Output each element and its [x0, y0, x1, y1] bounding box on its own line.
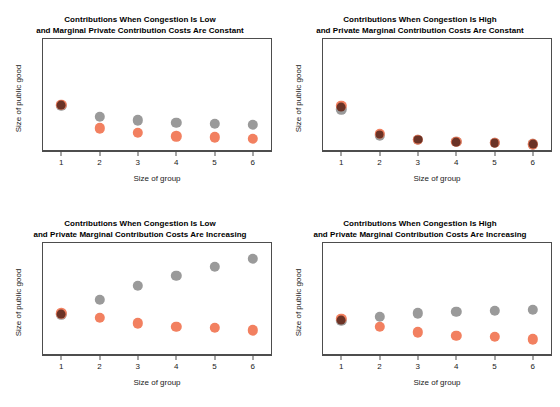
x-axis-tick: [341, 355, 342, 360]
x-axis-tick: [379, 151, 380, 156]
plot-area: [42, 242, 272, 355]
data-point-gray: [451, 307, 461, 317]
x-axis-tick: [252, 151, 253, 156]
data-point-overlap: [337, 103, 346, 112]
x-axis-tick-label: 6: [251, 158, 255, 167]
data-point-gray: [209, 119, 219, 129]
x-axis-line: [322, 151, 552, 152]
data-point-overlap: [528, 140, 537, 149]
x-axis-line: [42, 355, 272, 356]
x-axis-tick-label: 4: [454, 158, 458, 167]
x-axis-tick: [176, 151, 177, 156]
data-point-orange: [133, 318, 143, 328]
x-axis-tick-label: 6: [251, 362, 255, 371]
data-point-gray: [171, 118, 181, 128]
x-axis-tick-label: 2: [377, 158, 381, 167]
data-point-gray: [133, 281, 143, 291]
data-point-orange: [413, 327, 423, 337]
x-axis-tick-label: 3: [416, 158, 420, 167]
x-axis-tick: [494, 355, 495, 360]
data-point-gray: [209, 262, 219, 272]
x-axis-tick-label: 2: [97, 158, 101, 167]
data-point-overlap: [413, 135, 422, 144]
data-point-orange: [209, 323, 219, 333]
data-point-orange: [133, 128, 143, 138]
data-point-orange: [528, 334, 538, 344]
x-axis-tick-label: 6: [531, 158, 535, 167]
data-point-overlap: [490, 139, 499, 148]
x-axis-tick-label: 4: [454, 362, 458, 371]
data-point-gray: [94, 112, 104, 122]
data-point-orange: [209, 132, 219, 142]
data-point-orange: [94, 313, 104, 323]
x-axis-tick: [176, 355, 177, 360]
x-axis-tick-label: 2: [97, 362, 101, 371]
data-point-orange: [248, 325, 258, 335]
data-point-orange: [374, 322, 384, 332]
data-point-overlap: [337, 316, 346, 325]
x-axis-title: Size of group: [42, 174, 272, 183]
x-axis-tick: [379, 355, 380, 360]
x-axis-tick: [417, 151, 418, 156]
data-point-gray: [413, 308, 423, 318]
x-axis-tick-label: 5: [492, 158, 496, 167]
panel-title: Contributions When Congestion Is High an…: [280, 218, 560, 240]
x-axis-tick-label: 1: [59, 158, 63, 167]
plot-area: [322, 38, 552, 151]
x-axis-tick-label: 5: [212, 362, 216, 371]
data-point-gray: [171, 271, 181, 281]
panel-title: Contributions When Congestion Is Low and…: [0, 14, 280, 36]
data-point-overlap: [452, 138, 461, 147]
x-axis-tick: [137, 151, 138, 156]
data-point-orange: [171, 322, 181, 332]
y-axis-title: Size of public good: [14, 42, 23, 155]
x-axis-tick: [61, 355, 62, 360]
x-axis-tick-label: 1: [59, 362, 63, 371]
data-point-overlap: [57, 101, 66, 110]
data-point-orange: [171, 131, 181, 141]
x-axis-tick: [456, 151, 457, 156]
plot-area: [322, 242, 552, 355]
chart-panel-top-right: Contributions When Congestion Is High an…: [280, 0, 560, 203]
x-axis-tick: [532, 355, 533, 360]
x-axis-tick: [214, 151, 215, 156]
x-axis-tick: [214, 355, 215, 360]
figure-canvas: Contributions When Congestion Is Low and…: [0, 0, 560, 407]
x-axis-tick-label: 3: [136, 158, 140, 167]
data-point-orange: [451, 331, 461, 341]
x-axis-tick: [61, 151, 62, 156]
x-axis-tick-label: 4: [174, 362, 178, 371]
x-axis-tick-label: 6: [531, 362, 535, 371]
x-axis-tick-label: 1: [339, 158, 343, 167]
data-point-gray: [528, 305, 538, 315]
data-point-overlap: [57, 309, 66, 318]
data-point-orange: [489, 332, 499, 342]
x-axis-title: Size of group: [42, 378, 272, 387]
x-axis-tick-label: 3: [136, 362, 140, 371]
data-point-gray: [94, 294, 104, 304]
x-axis-tick: [99, 355, 100, 360]
data-point-gray: [489, 306, 499, 316]
x-axis-tick: [99, 151, 100, 156]
data-point-overlap: [375, 130, 384, 139]
x-axis-tick: [252, 355, 253, 360]
x-axis-tick-label: 2: [377, 362, 381, 371]
x-axis-tick: [341, 151, 342, 156]
y-axis-title: Size of public good: [14, 246, 23, 359]
x-axis-title: Size of group: [322, 174, 552, 183]
chart-panel-top-left: Contributions When Congestion Is Low and…: [0, 0, 280, 203]
plot-area: [42, 38, 272, 151]
data-point-orange: [94, 123, 104, 133]
data-point-gray: [133, 115, 143, 125]
x-axis-tick: [456, 355, 457, 360]
panel-title: Contributions When Congestion Is High an…: [280, 14, 560, 36]
x-axis-tick: [494, 151, 495, 156]
y-axis-title: Size of public good: [294, 246, 303, 359]
x-axis-line: [322, 355, 552, 356]
x-axis-tick-label: 4: [174, 158, 178, 167]
data-point-orange: [248, 133, 258, 143]
data-point-gray: [248, 120, 258, 130]
y-axis-title: Size of public good: [294, 42, 303, 155]
chart-panel-bottom-right: Contributions When Congestion Is High an…: [280, 204, 560, 407]
chart-panel-bottom-left: Contributions When Congestion Is Low and…: [0, 204, 280, 407]
